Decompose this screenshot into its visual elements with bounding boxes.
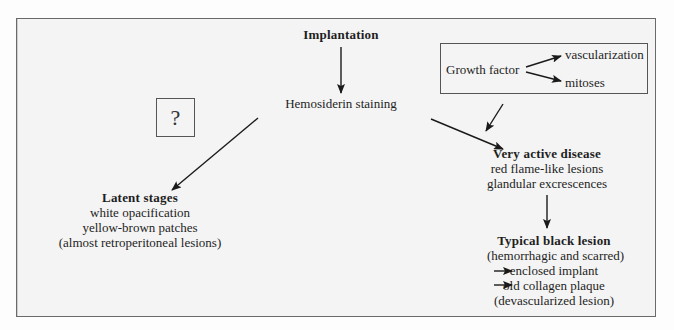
unknown-box: ? — [156, 98, 195, 137]
black-outcome: enclosed implant — [487, 263, 621, 278]
active-line: glandular excrescences — [477, 176, 617, 191]
node-typical-black-lesion: Typical black lesion (hemorrhagic and sc… — [487, 233, 621, 308]
arrow-hemosiderin-to-active — [431, 119, 503, 149]
latent-line: yellow-brown patches — [30, 220, 250, 235]
node-vascularization: vascularization — [565, 47, 644, 62]
node-mitoses: mitoses — [565, 75, 605, 90]
node-hemosiderin: Hemosiderin staining — [261, 96, 421, 111]
arrow-growthfactor-to-active — [486, 104, 503, 131]
black-title: Typical black lesion — [487, 233, 621, 248]
node-growth-factor: Growth factor — [446, 62, 519, 77]
latent-line: (almost retroperitoneal lesions) — [30, 235, 250, 250]
black-note: (devascularized lesion) — [487, 293, 621, 308]
black-subtitle: (hemorrhagic and scarred) — [487, 248, 621, 263]
black-outcome: old collagen plaque — [487, 278, 621, 293]
node-very-active-disease: Very active disease red flame-like lesio… — [477, 146, 617, 191]
latent-title: Latent stages — [30, 190, 250, 205]
latent-line: white opacification — [30, 205, 250, 220]
node-latent-stages: Latent stages white opacification yellow… — [30, 190, 250, 250]
active-line: red flame-like lesions — [477, 161, 617, 176]
node-implantation: Implantation — [291, 27, 391, 42]
active-title: Very active disease — [477, 146, 617, 161]
